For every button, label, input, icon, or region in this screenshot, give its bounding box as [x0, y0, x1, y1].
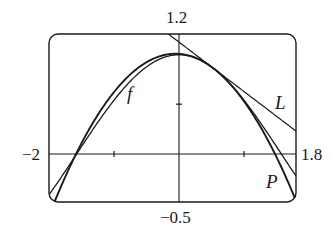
ymin-label: −0.5	[160, 209, 191, 226]
ymax-label: 1.2	[166, 9, 187, 26]
axes	[49, 34, 296, 202]
xmax-label: 1.8	[301, 146, 322, 163]
graph-window	[0, 0, 332, 241]
curve-p	[49, 54, 296, 216]
xmin-label: −2	[22, 146, 40, 163]
line-l-label: L	[275, 93, 286, 112]
curve-f-label: f	[127, 84, 132, 103]
viewing-window-frame	[49, 34, 296, 202]
curve-p-label: P	[266, 172, 278, 191]
